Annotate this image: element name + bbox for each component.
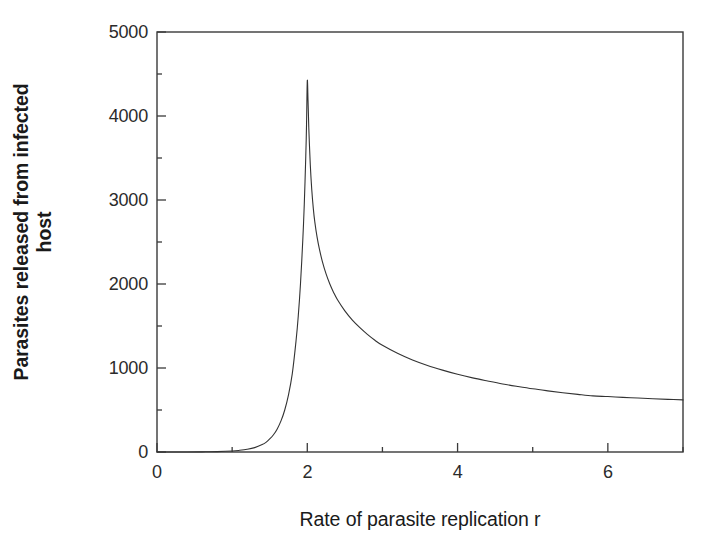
plot-frame-box xyxy=(157,32,683,452)
plot-frame xyxy=(157,32,683,452)
axis-ticks xyxy=(157,32,683,452)
data-series-line xyxy=(157,80,683,452)
chart-figure: Parasites released from infected host 01… xyxy=(0,0,702,556)
plot-area xyxy=(0,0,702,556)
